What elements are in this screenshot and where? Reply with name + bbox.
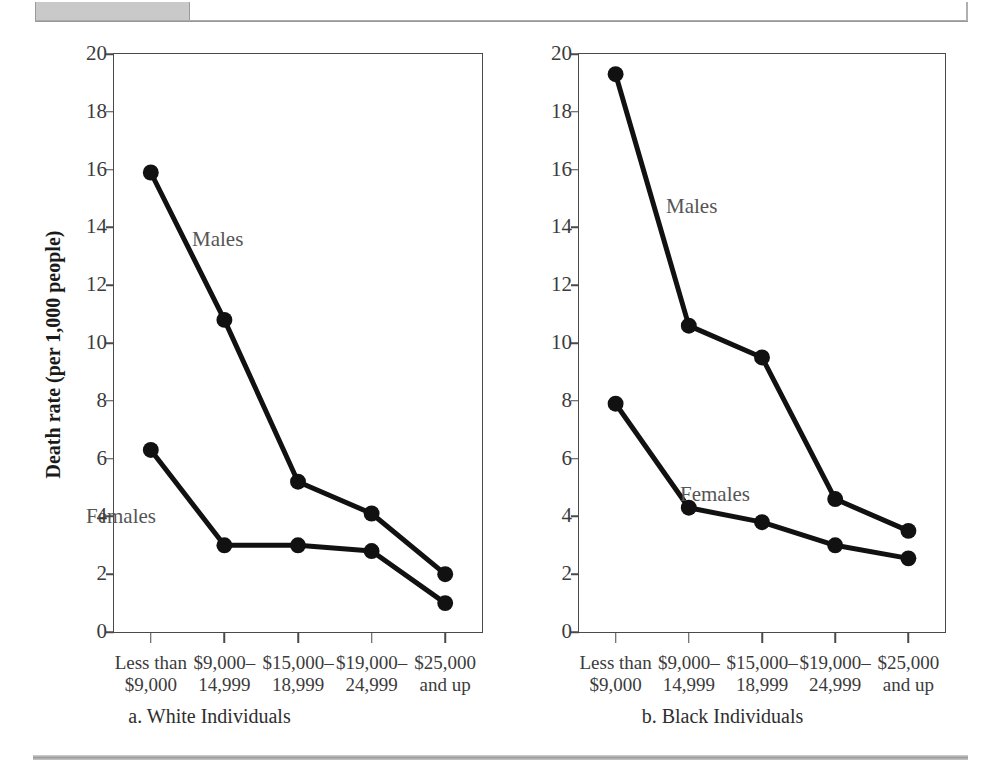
data-point-marker: [216, 312, 232, 328]
data-point-marker: [216, 537, 232, 553]
x-tick-label-line2: $9,000: [115, 674, 187, 696]
y-tick-mark: [571, 227, 579, 229]
y-tick-mark: [571, 342, 579, 344]
x-tick-label: Less than$9,000: [115, 652, 187, 696]
y-tick-mark: [571, 573, 579, 575]
y-tick-mark: [106, 169, 114, 171]
y-tick-label: 0: [562, 621, 573, 642]
x-tick-mark: [150, 632, 152, 643]
x-tick-label: $9,000–14,999: [194, 652, 256, 696]
y-tick-label: 20: [86, 43, 107, 64]
data-point-marker: [827, 491, 843, 507]
x-tick-label-line1: $9,000–: [194, 652, 256, 674]
y-tick-label: 6: [562, 448, 573, 469]
x-tick-label-line2: and up: [878, 674, 940, 696]
y-axis-label-white: Death rate (per 1,000 people): [42, 75, 65, 635]
data-point-marker: [290, 474, 306, 490]
series-label-males-black: Males: [666, 196, 717, 217]
x-tick-label: $19,000–24,999: [800, 652, 871, 696]
x-tick-mark: [761, 632, 763, 643]
x-tick-label-line2: and up: [414, 674, 476, 696]
x-tick-label: Less than$9,000: [579, 652, 651, 696]
series-lines-white: [114, 54, 482, 632]
y-tick-label: 4: [562, 505, 573, 526]
y-tick-label: 16: [551, 159, 572, 180]
data-point-marker: [681, 318, 697, 334]
x-tick-label-line1: $25,000: [414, 652, 476, 674]
x-tick-label: $25,000and up: [414, 652, 476, 696]
data-point-marker: [754, 514, 770, 530]
x-tick-mark: [224, 632, 226, 643]
x-tick-label: $25,000and up: [878, 652, 940, 696]
y-tick-label: 18: [551, 101, 572, 122]
y-tick-label: 16: [86, 159, 107, 180]
y-tick-label: 18: [86, 101, 107, 122]
x-tick-label-line1: Less than: [579, 652, 651, 674]
data-point-marker: [143, 165, 159, 181]
panel-caption-black: b. Black Individuals: [473, 705, 972, 728]
series-line-females: [151, 450, 445, 603]
y-tick-mark: [106, 53, 114, 55]
y-tick-label: 10: [551, 332, 572, 353]
x-tick-mark: [908, 632, 910, 643]
y-tick-label: 10: [86, 332, 107, 353]
y-tick-label: 6: [97, 448, 108, 469]
x-tick-mark: [688, 632, 690, 643]
y-tick-mark: [106, 111, 114, 113]
x-tick-mark: [297, 632, 299, 643]
series-label-females-black: Females: [680, 484, 750, 505]
y-tick-label: 20: [551, 43, 572, 64]
x-tick-label-line2: 14,999: [658, 674, 720, 696]
x-tick-label-line1: $9,000–: [658, 652, 720, 674]
x-tick-label: $15,000–18,999: [262, 652, 333, 696]
chart-panel-black: Death rate (per 1,000 people) Males Fema…: [499, 0, 998, 772]
x-tick-label-line2: $9,000: [579, 674, 651, 696]
x-tick-mark: [834, 632, 836, 643]
y-tick-label: 8: [562, 390, 573, 411]
y-tick-mark: [571, 111, 579, 113]
series-lines-black: [579, 54, 945, 632]
data-point-marker: [364, 543, 380, 559]
series-line-females: [616, 404, 909, 559]
plot-area-black: Males Females 02468101214161820Less than…: [578, 53, 946, 633]
data-point-marker: [364, 506, 380, 522]
x-tick-label-line2: 18,999: [726, 674, 797, 696]
y-tick-label: 14: [86, 216, 107, 237]
y-tick-mark: [106, 284, 114, 286]
x-tick-label-line1: $25,000: [878, 652, 940, 674]
x-tick-label-line1: $19,000–: [336, 652, 407, 674]
y-tick-label: 12: [86, 274, 107, 295]
x-tick-mark: [615, 632, 617, 643]
x-tick-label-line2: 24,999: [336, 674, 407, 696]
x-tick-label-line2: 18,999: [262, 674, 333, 696]
data-point-marker: [608, 66, 624, 82]
data-point-marker: [900, 523, 916, 539]
x-tick-mark: [371, 632, 373, 643]
data-point-marker: [437, 566, 453, 582]
x-tick-label-line1: $15,000–: [262, 652, 333, 674]
y-tick-mark: [571, 458, 579, 460]
data-point-marker: [608, 396, 624, 412]
x-tick-label-line1: $19,000–: [800, 652, 871, 674]
bottom-divider-rule: [33, 755, 968, 760]
y-tick-mark: [106, 400, 114, 402]
y-tick-label: 2: [562, 563, 573, 584]
figure-page: Death rate (per 1,000 people) Males Fema…: [0, 0, 998, 772]
y-tick-mark: [106, 458, 114, 460]
x-tick-label: $15,000–18,999: [726, 652, 797, 696]
data-point-marker: [143, 442, 159, 458]
data-point-marker: [437, 595, 453, 611]
y-tick-mark: [571, 169, 579, 171]
y-tick-mark: [571, 53, 579, 55]
x-tick-mark: [444, 632, 446, 643]
y-tick-label: 4: [97, 505, 108, 526]
x-tick-label-line2: 14,999: [194, 674, 256, 696]
y-tick-mark: [571, 631, 579, 633]
y-tick-label: 2: [97, 563, 108, 584]
data-point-marker: [290, 537, 306, 553]
y-tick-mark: [106, 342, 114, 344]
y-tick-mark: [106, 631, 114, 633]
data-point-marker: [754, 349, 770, 365]
series-label-males-white: Males: [192, 229, 243, 250]
y-tick-mark: [106, 227, 114, 229]
